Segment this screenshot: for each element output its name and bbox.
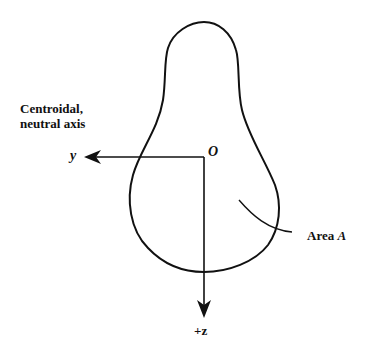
axis-title-line1: Centroidal, [20, 101, 85, 116]
cross-section-diagram [0, 0, 383, 344]
axis-title-line2: neutral axis [20, 116, 85, 131]
y-axis-label: y [70, 148, 76, 163]
area-label-text: Area [307, 228, 334, 243]
area-leader-line [239, 200, 292, 232]
z-axis-label: +z [194, 323, 207, 338]
area-symbol: A [337, 228, 346, 243]
axis-title: Centroidal, neutral axis [20, 101, 85, 131]
origin-label: O [208, 144, 218, 159]
area-label: Area A [307, 228, 346, 243]
